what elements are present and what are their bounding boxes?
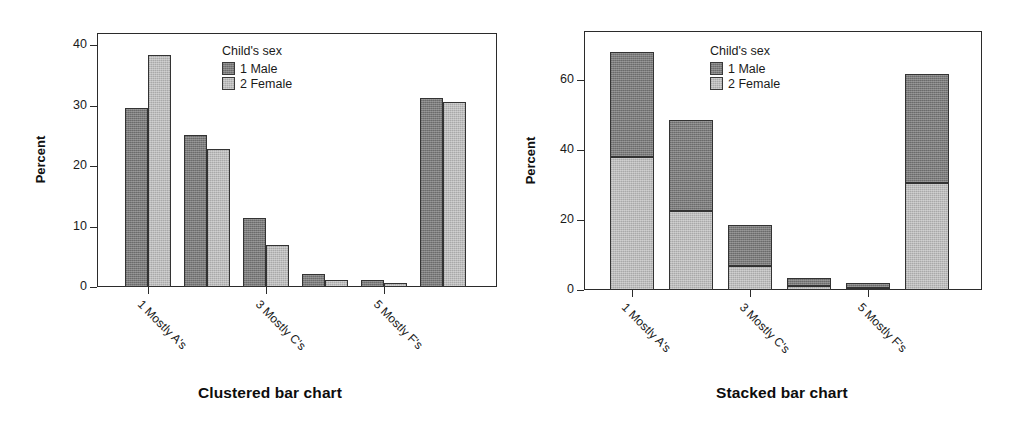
x-tick-mark (868, 290, 869, 297)
y-tick-label: 60 (536, 73, 574, 86)
y-tick-mark (90, 106, 97, 107)
x-tick-label: 1 Mostly A's (136, 298, 189, 351)
y-tick-mark (90, 45, 97, 46)
bar-male-6 (905, 74, 949, 184)
bar-female-2 (207, 149, 230, 287)
male-swatch-icon (222, 62, 235, 75)
bar-female-3 (728, 266, 772, 291)
panel-clustered-bar-chart: Percent 010203040 1 Mostly A's3 Mostly C… (0, 0, 510, 430)
y-tick-mark (577, 150, 584, 151)
y-axis-title-clustered: Percent (33, 115, 48, 205)
y-tick-label: 20 (536, 213, 574, 226)
y-tick-label: 40 (536, 143, 574, 156)
y-tick-label: 40 (49, 38, 87, 51)
bar-male-6 (420, 98, 443, 287)
y-tick-label: 30 (49, 99, 87, 112)
legend-clustered: Child's sex 1 Male 2 Female (222, 44, 292, 92)
x-tick-label: 5 Mostly F's (856, 301, 909, 354)
legend-item-male[interactable]: 1 Male (222, 62, 292, 75)
bar-female-2 (669, 211, 713, 290)
panel-caption-stacked: Stacked bar chart (510, 384, 1020, 402)
bar-female-3 (266, 245, 289, 287)
y-tick-mark (577, 220, 584, 221)
x-tick-mark (266, 287, 267, 294)
x-tick-mark (148, 287, 149, 294)
bar-male-4 (302, 274, 325, 287)
legend-item-female[interactable]: 2 Female (222, 77, 292, 90)
bar-male-5 (361, 280, 384, 287)
y-tick-mark (577, 80, 584, 81)
bar-male-3 (243, 218, 266, 287)
legend-label-male: 1 Male (728, 63, 766, 76)
bar-female-1 (148, 55, 171, 287)
y-tick-label: 0 (49, 280, 87, 293)
y-tick-label: 20 (49, 159, 87, 172)
legend-item-male[interactable]: 1 Male (710, 62, 780, 75)
legend-item-female[interactable]: 2 Female (710, 77, 780, 90)
x-tick-mark (384, 287, 385, 294)
bar-female-5 (846, 288, 890, 290)
y-tick-label: 10 (49, 220, 87, 233)
bar-male-1 (610, 52, 654, 157)
legend-label-female: 2 Female (728, 78, 780, 91)
bar-male-1 (125, 108, 148, 287)
bar-female-4 (325, 280, 348, 287)
y-tick-mark (577, 290, 584, 291)
bar-female-5 (384, 283, 407, 287)
x-tick-label: 1 Mostly A's (620, 301, 673, 354)
y-axis-title-stacked: Percent (523, 115, 538, 205)
bar-male-2 (184, 135, 207, 287)
bar-male-3 (728, 225, 772, 265)
x-tick-label: 5 Mostly F's (372, 298, 425, 351)
bar-male-4 (787, 278, 831, 286)
female-swatch-icon (222, 77, 235, 90)
bar-female-1 (610, 157, 654, 290)
y-tick-mark (90, 287, 97, 288)
y-tick-mark (90, 227, 97, 228)
legend-stacked: Child's sex 1 Male 2 Female (710, 44, 780, 92)
legend-label-female: 2 Female (240, 78, 292, 91)
x-tick-label: 3 Mostly C's (254, 298, 308, 352)
y-tick-label: 0 (536, 283, 574, 296)
male-swatch-icon (710, 62, 723, 75)
bar-female-6 (905, 183, 949, 290)
x-tick-label: 3 Mostly C's (738, 301, 792, 355)
x-tick-mark (632, 290, 633, 297)
bar-female-6 (443, 102, 466, 287)
x-tick-mark (750, 290, 751, 297)
legend-label-male: 1 Male (240, 63, 278, 76)
panel-stacked-bar-chart: Percent 0204060 1 Mostly A's3 Mostly C's… (510, 0, 1020, 430)
bar-female-4 (787, 286, 831, 290)
legend-title: Child's sex (222, 44, 292, 58)
legend-title: Child's sex (710, 44, 780, 58)
panel-caption-clustered: Clustered bar chart (0, 384, 510, 402)
figure-two-bar-charts: Percent 010203040 1 Mostly A's3 Mostly C… (0, 0, 1020, 430)
female-swatch-icon (710, 77, 723, 90)
y-tick-mark (90, 166, 97, 167)
bar-male-2 (669, 120, 713, 211)
